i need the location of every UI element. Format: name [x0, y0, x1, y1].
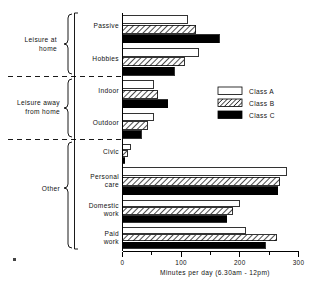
bar-indoor-class-c [123, 100, 168, 108]
category-label-paid-work-line2: work [103, 238, 120, 245]
group-label-leisure-away-line2: from home [25, 108, 60, 115]
category-label-outdoor: Outdoor [93, 119, 120, 126]
legend-label-class-c: Class C [249, 112, 275, 119]
bar-paid-work-class-b [123, 235, 277, 241]
x-tick-label: 200 [234, 259, 246, 266]
bar-outdoor-class-c [123, 131, 142, 138]
hatched-swatch [218, 99, 242, 107]
x-tick-label: 0 [121, 259, 125, 266]
x-tick-label: 100 [175, 259, 187, 266]
category-label-indoor: Indoor [98, 87, 119, 94]
category-label-passive: Passive [93, 22, 119, 29]
x-axis-label: Minutes per day (6.30am - 12pm) [160, 269, 270, 277]
category-label-hobbies: Hobbies [92, 55, 119, 62]
bar-outdoor-class-b [123, 122, 148, 129]
category-label-paid-work-line1: Paid [104, 230, 119, 237]
category-label-personal-care-line2: care [105, 181, 119, 188]
bar-personal-care-class-c [123, 187, 278, 195]
category-label-domestic-work-line2: work [103, 210, 120, 217]
bar-personal-care-class-b [123, 177, 280, 185]
bar-hobbies-class-c [123, 67, 175, 75]
bar-passive-class-a [123, 16, 188, 24]
x-tick-label: 300 [293, 259, 305, 266]
group-label-other: Other [42, 185, 61, 192]
bar-hobbies-class-b [123, 58, 185, 66]
legend-label-class-a: Class A [249, 88, 274, 95]
bar-civic-class-a [123, 144, 131, 149]
bar-personal-care-class-a [123, 168, 287, 176]
category-label-personal-care-line1: Personal [90, 173, 119, 180]
bar-paid-work-class-c [123, 242, 266, 248]
bar-group [123, 168, 287, 195]
group-label-leisure-at-home-line2: home [39, 45, 57, 52]
bar-domestic-work-class-b [123, 208, 233, 214]
empty-swatch [218, 87, 242, 95]
group-label-leisure-at-home-line1: Leisure at [25, 36, 57, 43]
bar-civic-class-b [123, 151, 128, 156]
bar-chart: Leisure at home Leisure away from home O… [0, 0, 331, 291]
bar-domestic-work-class-a [123, 200, 240, 206]
bar-passive-class-c [123, 35, 220, 43]
legend-label-class-b: Class B [249, 100, 275, 107]
bar-civic-class-c [123, 158, 125, 163]
bar-hobbies-class-a [123, 48, 199, 56]
bar-domestic-work-class-c [123, 216, 227, 222]
category-label-domestic-work-line1: Domestic [89, 202, 120, 209]
bar-outdoor-class-a [123, 113, 154, 120]
bar-group [123, 200, 240, 222]
group-label-leisure-away-line1: Leisure away [17, 99, 60, 107]
bar-indoor-class-a [123, 81, 154, 89]
bar-paid-work-class-a [123, 227, 246, 233]
bar-passive-class-b [123, 25, 196, 33]
bar-indoor-class-b [123, 90, 158, 98]
corner-mark [13, 258, 16, 261]
category-label-civic: Civic [103, 148, 119, 155]
solid-swatch [218, 111, 242, 119]
